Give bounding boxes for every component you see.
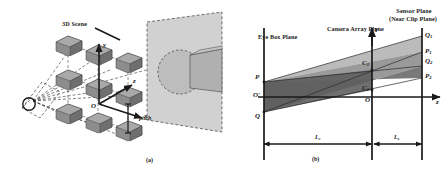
- label-axis-Y: Y: [374, 27, 378, 34]
- label-point-Q2: Q2: [425, 58, 432, 65]
- label-pitch: pitch: [139, 115, 151, 121]
- label-point-C1: C1: [362, 60, 369, 67]
- label-point-P2: P2: [425, 73, 432, 80]
- label-point-Q2-sub: 2: [430, 60, 432, 65]
- label-dimension-lc: Lc: [315, 134, 320, 141]
- label-point-C1-sub: 1: [367, 62, 369, 67]
- panel-b-graphics: [258, 28, 440, 160]
- label-point-Q1-sub: 1: [430, 34, 432, 39]
- panel-a-tag: (a): [146, 157, 153, 163]
- label-origin-a: O: [91, 103, 96, 110]
- label-dimension-lc-sub: c: [319, 136, 321, 141]
- label-eye-box-plane: Eye Box Plane: [258, 34, 297, 41]
- label-point-C2-sub: 2: [367, 87, 369, 92]
- label-point-C2: C2: [362, 85, 369, 92]
- label-point-P2-sub: 2: [429, 75, 431, 80]
- label-point-P: P: [255, 74, 259, 81]
- label-point-Q1: Q1: [425, 32, 432, 39]
- label-point-Q: Q: [255, 113, 260, 120]
- label-origin-cam: O: [365, 97, 370, 104]
- panel-b-tag: (b): [312, 156, 319, 162]
- label-3d-scene: 3D Scene: [62, 21, 87, 28]
- label-origin-eye: O': [253, 92, 260, 99]
- label-dimension-ls: Ls: [394, 134, 399, 141]
- scene-panel: [147, 12, 228, 132]
- eye-icon: [23, 98, 35, 110]
- scene-leader-line: [95, 28, 120, 40]
- label-sensor-plane-line2: (Near Clip Plane): [378, 16, 447, 23]
- label-dimension-ls-sub: s: [398, 136, 400, 141]
- label-point-P1-sub: 1: [429, 50, 431, 55]
- panel-a-graphics: [22, 12, 228, 141]
- label-point-P1: P1: [425, 48, 432, 55]
- label-axis-z: z: [133, 78, 136, 85]
- label-axis-z-b: z: [436, 99, 439, 106]
- label-sensor-plane-line1: Sensor Plane: [384, 8, 444, 15]
- figure-root: 3D Scene y x z O pitch (a) Sensor Plane …: [0, 0, 447, 178]
- label-axis-y: y: [103, 42, 106, 49]
